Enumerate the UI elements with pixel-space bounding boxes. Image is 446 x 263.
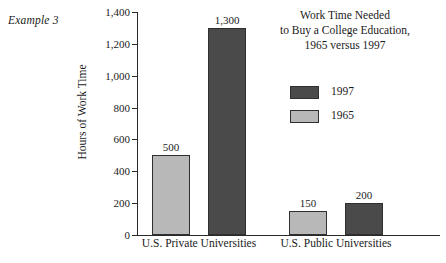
y-axis-tick-label: 0	[125, 230, 131, 241]
y-axis-tick-mark	[132, 44, 137, 45]
y-axis-tick-mark	[132, 76, 137, 77]
y-axis-tick-mark	[132, 235, 137, 236]
y-axis-tick-label: 600	[114, 134, 131, 145]
y-axis-tick-label: 200	[114, 198, 131, 209]
plot-box: 02004006008001,0001,2001,400 1,300500200…	[137, 12, 440, 236]
x-axis-line	[137, 235, 440, 236]
y-axis-tick-label: 800	[114, 102, 131, 113]
y-axis-title: Hours of Work Time	[76, 64, 88, 159]
y-axis-tick-label: 400	[114, 166, 131, 177]
bar-value-label: 1,300	[215, 15, 240, 26]
bar-1965-private: 500	[152, 155, 190, 235]
x-axis-label-private: U.S. Private Universities	[142, 238, 256, 250]
bar-1997-public: 200	[345, 203, 383, 235]
y-axis-tick-mark	[132, 139, 137, 140]
bar-value-label: 150	[300, 198, 317, 209]
example-caption: Example 3	[8, 14, 59, 26]
bar-value-label: 200	[356, 190, 373, 201]
bar-1997-private: 1,300	[208, 28, 246, 235]
bar-1965-public: 150	[289, 211, 327, 235]
y-axis-tick-label: 1,000	[105, 70, 130, 81]
y-axis-tick-label: 1,200	[105, 38, 130, 49]
bar-value-label: 500	[163, 142, 180, 153]
x-axis-label-public: U.S. Public Universities	[280, 238, 391, 250]
y-axis-tick-mark	[132, 171, 137, 172]
y-axis-line	[137, 12, 138, 236]
y-axis-tick-label: 1,400	[105, 7, 130, 18]
y-axis-tick-mark	[132, 108, 137, 109]
chart-screenshot: Example 3 Work Time Needed to Buy a Coll…	[0, 0, 446, 263]
y-axis-tick-mark	[132, 203, 137, 204]
chart-plot-area: 02004006008001,0001,2001,400 1,300500200…	[137, 12, 440, 236]
y-axis-tick-mark	[132, 12, 137, 13]
